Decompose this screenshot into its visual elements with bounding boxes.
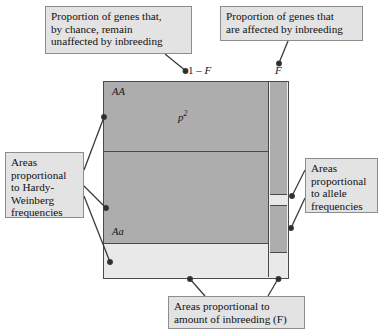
genotype-label-AA: AA bbox=[112, 86, 125, 97]
leader-inbreeding-left bbox=[190, 279, 205, 296]
label-one-minus-f: 1 – F bbox=[188, 64, 211, 76]
cell-spacer-upper bbox=[270, 195, 287, 205]
label-one-minus-f-dash: – bbox=[194, 64, 205, 76]
cell-AA-p-squared: AA p2 bbox=[104, 82, 269, 152]
cell-aa-q-squared: aa q2 bbox=[104, 244, 269, 277]
cell-Aa-2pq: Aa 2pq bbox=[104, 152, 269, 244]
frequency-label-p-squared: p2 bbox=[178, 109, 187, 123]
callout-hardy-weinberg-frequencies: Areas proportional to Hardy- Weinberg fr… bbox=[5, 152, 84, 218]
callout-allele-frequencies: Areas proportional to allele frequencies bbox=[305, 158, 378, 213]
callout-affected-by-inbreeding: Proportion of genes that are affected by… bbox=[220, 6, 363, 41]
label-f-symbol: F bbox=[275, 64, 282, 76]
leader-allele-lower bbox=[291, 198, 305, 228]
leader-unaffected bbox=[165, 54, 186, 71]
label-f: F bbox=[275, 64, 282, 76]
leader-hw-upper bbox=[84, 117, 104, 170]
genotype-label-Aa: Aa bbox=[112, 226, 124, 237]
cell-spacer-lower bbox=[270, 253, 287, 277]
callout-unaffected-by-inbreeding: Proportion of genes that, by chance, rem… bbox=[45, 6, 192, 54]
cell-aa-q: aa q bbox=[270, 205, 287, 253]
leader-inbreeding-right bbox=[268, 279, 278, 296]
label-one-minus-f-symbol: F bbox=[205, 64, 212, 76]
leader-dot-allele-lower bbox=[289, 226, 294, 231]
leader-allele-upper bbox=[292, 170, 305, 196]
leader-dot-allele-upper bbox=[290, 194, 295, 199]
callout-amount-of-inbreeding: Areas proportional to amount of inbreedi… bbox=[168, 296, 305, 329]
diagram-canvas: 1 – F F AA p2 Aa 2pq aa q2 AA p aa q bbox=[0, 0, 384, 331]
genotype-frequency-figure: AA p2 Aa 2pq aa q2 AA p aa q bbox=[103, 81, 289, 279]
cell-AA-p: AA p bbox=[270, 82, 287, 195]
frequency-exponent-2: 2 bbox=[184, 109, 188, 118]
leader-affected bbox=[279, 41, 288, 63]
